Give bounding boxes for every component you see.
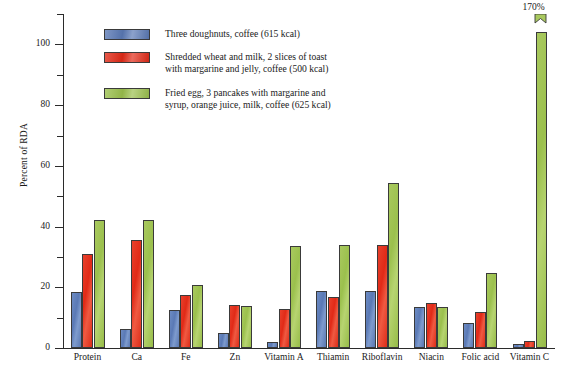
y-axis-tick bbox=[57, 75, 64, 76]
bar bbox=[279, 309, 290, 348]
bar-group bbox=[513, 14, 547, 348]
bar bbox=[180, 295, 191, 348]
bar-group bbox=[463, 14, 497, 348]
bar bbox=[513, 344, 524, 348]
y-axis-title: Percent of RDA bbox=[19, 95, 29, 215]
y-axis-tick bbox=[57, 196, 64, 197]
bar bbox=[267, 342, 278, 348]
y-axis-tick bbox=[57, 136, 64, 137]
bar-chart: Percent of RDA 020406080100 ProteinCaFeZ… bbox=[0, 0, 562, 386]
y-axis-tick bbox=[55, 287, 64, 288]
y-axis-tick bbox=[55, 105, 64, 106]
y-axis-tick bbox=[57, 318, 64, 319]
x-axis-tick-label: Riboflavin bbox=[362, 352, 403, 362]
legend-swatch-blue bbox=[104, 29, 150, 40]
bar bbox=[241, 306, 252, 348]
x-axis-tick-label: Vitamin C bbox=[510, 352, 549, 362]
legend-label: Shredded wheat and milk, 2 slices of toa… bbox=[165, 51, 328, 75]
bar bbox=[143, 220, 154, 348]
bar bbox=[365, 291, 376, 348]
y-axis-tick-label: 20 bbox=[20, 281, 50, 291]
bar-group bbox=[414, 14, 448, 348]
x-axis-tick-label: Vitamin A bbox=[264, 352, 303, 362]
bar bbox=[316, 291, 327, 348]
y-axis-tick-label: 40 bbox=[20, 221, 50, 231]
bar bbox=[290, 246, 301, 348]
bar bbox=[486, 273, 497, 348]
bar bbox=[218, 333, 229, 348]
y-axis-tick-label: 60 bbox=[20, 160, 50, 170]
y-axis-tick-label: 80 bbox=[20, 99, 50, 109]
bar bbox=[426, 303, 437, 349]
bar-group bbox=[71, 14, 105, 348]
legend-item: Shredded wheat and milk, 2 slices of toa… bbox=[104, 51, 331, 75]
value-annotation: 170% bbox=[522, 2, 544, 12]
bar bbox=[388, 183, 399, 348]
legend-item: Three doughnuts, coffee (615 kcal) bbox=[104, 28, 331, 40]
bar bbox=[131, 240, 142, 348]
bar-group bbox=[365, 14, 399, 348]
axis-break-icon bbox=[534, 14, 547, 27]
y-axis-tick-label: 0 bbox=[20, 342, 50, 352]
bar bbox=[377, 245, 388, 348]
chart-legend: Three doughnuts, coffee (615 kcal)Shredd… bbox=[104, 28, 331, 122]
bar bbox=[82, 254, 93, 348]
x-axis-line bbox=[63, 348, 555, 349]
bar bbox=[120, 329, 131, 348]
x-axis-tick-label: Fe bbox=[181, 352, 191, 362]
legend-label: Fried egg, 3 pancakes with margarine and… bbox=[165, 87, 331, 111]
bar bbox=[475, 312, 486, 348]
bar bbox=[414, 307, 425, 348]
bar bbox=[536, 32, 547, 348]
bar bbox=[229, 305, 240, 348]
x-axis-tick-label: Zn bbox=[230, 352, 241, 362]
x-axis-tick-label: Ca bbox=[131, 352, 142, 362]
legend-item: Fried egg, 3 pancakes with margarine and… bbox=[104, 87, 331, 111]
bar bbox=[524, 341, 535, 348]
bar bbox=[169, 310, 180, 348]
y-axis-tick bbox=[55, 227, 64, 228]
x-axis-tick-label: Folic acid bbox=[462, 352, 500, 362]
legend-label: Three doughnuts, coffee (615 kcal) bbox=[165, 28, 300, 40]
legend-swatch-green bbox=[104, 88, 150, 99]
y-axis-tick bbox=[57, 257, 64, 258]
y-axis-tick bbox=[57, 14, 64, 15]
bar bbox=[463, 323, 474, 348]
x-axis-tick-label: Protein bbox=[74, 352, 101, 362]
bar bbox=[437, 307, 448, 348]
x-axis-tick-label: Niacin bbox=[419, 352, 444, 362]
bar bbox=[339, 245, 350, 348]
bar bbox=[192, 285, 203, 349]
y-axis-tick bbox=[55, 44, 64, 45]
bar bbox=[328, 297, 339, 348]
y-axis-tick bbox=[55, 166, 64, 167]
legend-swatch-red bbox=[104, 52, 150, 63]
bar bbox=[71, 292, 82, 348]
x-axis-tick-label: Thiamin bbox=[317, 352, 349, 362]
y-axis-tick-label: 100 bbox=[20, 38, 50, 48]
bar bbox=[94, 220, 105, 348]
